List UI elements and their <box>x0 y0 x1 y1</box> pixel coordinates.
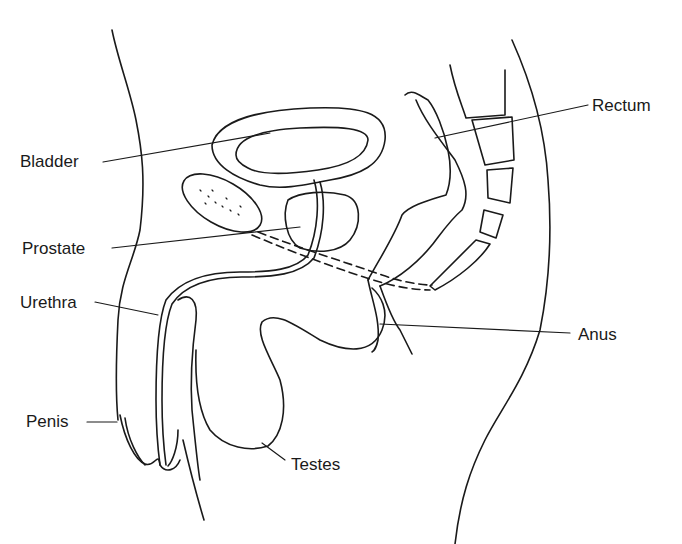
anatomy-line-drawing <box>0 0 682 544</box>
label-rectum: Rectum <box>592 97 651 114</box>
bladder-inner <box>236 127 368 173</box>
coccyx <box>430 240 490 290</box>
rectum-right-wall <box>380 100 466 286</box>
label-testes: Testes <box>291 456 340 473</box>
leader-urethra <box>95 302 158 315</box>
leader-rectum <box>435 105 588 138</box>
sacrum-top <box>450 65 505 118</box>
label-penis: Penis <box>26 413 69 430</box>
bone-stipple <box>200 190 241 215</box>
vertebra-3 <box>480 210 503 238</box>
pelvic-floor-dashed-2 <box>258 232 432 285</box>
vertebra-1 <box>472 117 514 165</box>
urethra-inner <box>162 182 323 465</box>
scrotum <box>196 288 385 449</box>
front-body-outline <box>112 30 143 420</box>
anatomy-diagram: Bladder Prostate Urethra Penis Testes Re… <box>0 0 682 544</box>
label-prostate: Prostate <box>22 240 85 257</box>
vertebra-2 <box>487 168 513 203</box>
urethra-outer <box>156 180 317 465</box>
leader-bladder <box>103 133 270 162</box>
label-bladder: Bladder <box>20 153 79 170</box>
pelvic-floor-dashed <box>252 235 430 290</box>
label-anus: Anus <box>578 326 617 343</box>
label-urethra: Urethra <box>20 294 77 311</box>
glans-curve-right <box>168 430 178 466</box>
leader-testes <box>262 443 285 460</box>
leg-outline <box>183 440 204 520</box>
